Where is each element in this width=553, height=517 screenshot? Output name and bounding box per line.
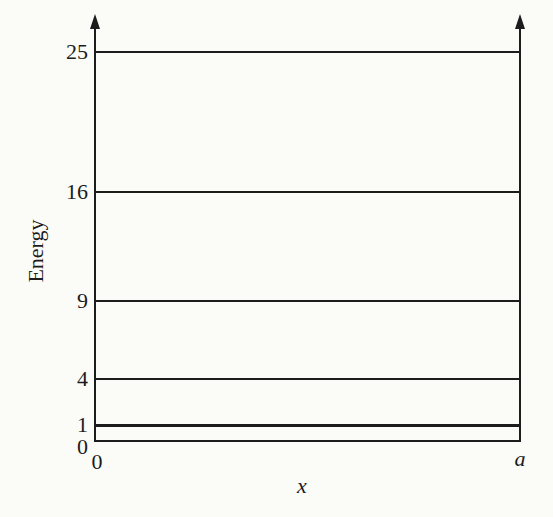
x-tick-zero-label: 0 — [85, 449, 109, 475]
left-wall-axis-line — [94, 28, 96, 442]
x-axis-title: x — [287, 472, 317, 500]
energy-level-line — [95, 300, 520, 302]
y-tick-label: 4 — [36, 366, 88, 392]
energy-level-line — [95, 424, 520, 426]
y-tick-label: 16 — [36, 179, 88, 205]
y-tick-label: 25 — [36, 39, 88, 65]
energy-level-line — [95, 51, 520, 53]
y-tick-label: 9 — [36, 288, 88, 314]
right-up-arrow-icon — [515, 14, 525, 29]
x-tick-a-label: a — [506, 446, 534, 472]
energy-level-line — [95, 191, 520, 193]
x-axis-line — [94, 440, 521, 442]
energy-level-line — [95, 378, 520, 380]
energy-level-figure: Energy 1491625 0 0 a x — [0, 0, 553, 517]
right-wall-axis-line — [519, 28, 521, 442]
left-up-arrow-icon — [90, 14, 100, 29]
y-tick-origin-label: 0 — [36, 434, 88, 460]
